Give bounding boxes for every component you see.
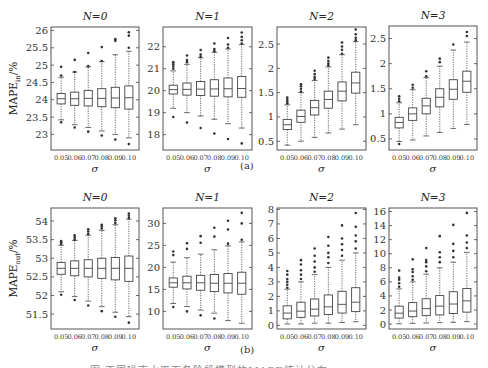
- outlier-point: [411, 275, 414, 278]
- x-tick-label: 0.10: [460, 333, 474, 341]
- outlier-point: [186, 54, 189, 57]
- outlier-point: [466, 31, 469, 34]
- boxplot-panel-a-N2: N=20.511.522.50.050.060.070.080.090.10σ: [258, 10, 366, 174]
- x-axis-label: σ: [204, 342, 212, 353]
- iqr-box: [449, 292, 457, 314]
- outlier-point: [313, 270, 316, 273]
- outlier-point: [128, 34, 131, 37]
- outlier-point: [425, 265, 428, 268]
- iqr-box: [409, 303, 417, 317]
- iqr-box: [436, 89, 444, 107]
- outlier-point: [354, 33, 357, 36]
- iqr-box: [111, 87, 119, 107]
- boxplot-panel-a-N3: N=30.511.522.50.050.060.070.080.090.10σ: [370, 9, 477, 174]
- panel-title: N=0: [82, 10, 108, 22]
- outlier-point: [227, 138, 230, 141]
- y-tick-label: 25: [35, 60, 48, 71]
- y-tick-label: 51.5: [26, 309, 48, 320]
- x-tick-label: 0.10: [122, 333, 136, 341]
- outlier-point: [73, 238, 76, 241]
- x-tick-label: 0.06: [294, 154, 308, 162]
- y-tick-label: 1.5: [258, 87, 274, 98]
- box-0.06: [71, 59, 79, 129]
- x-tick-label: 0.05: [166, 154, 180, 162]
- y-tick-label: 0: [380, 319, 386, 330]
- y-tick-label: 14: [373, 220, 386, 231]
- y-tick-label: 10: [373, 248, 386, 259]
- y-tick-label: 52: [35, 290, 48, 301]
- outlier-point: [172, 306, 175, 309]
- x-tick-label: 0.10: [348, 154, 362, 162]
- outlier-point: [213, 42, 216, 45]
- box-0.05: [57, 240, 65, 296]
- outlier-point: [227, 47, 230, 50]
- outlier-point: [438, 251, 441, 254]
- boxplot-panel-a-N1: N=118192021220.050.060.070.080.090.10σ: [147, 10, 252, 174]
- x-tick-label: 0.10: [348, 333, 362, 341]
- outlier-point: [411, 268, 414, 271]
- outlier-point: [286, 270, 289, 273]
- outlier-point: [240, 36, 243, 39]
- outlier-point: [452, 224, 455, 227]
- outlier-point: [398, 282, 401, 285]
- outlier-point: [411, 83, 414, 86]
- boxplot-panel-b-N0: N=051.55252.55353.5540.050.060.070.080.0…: [7, 191, 139, 353]
- outlier-point: [300, 259, 303, 262]
- outlier-point: [128, 321, 131, 324]
- outlier-point: [466, 234, 469, 237]
- outlier-point: [114, 222, 117, 225]
- outlier-point: [398, 276, 401, 279]
- box-0.06: [183, 54, 191, 124]
- outlier-point: [199, 235, 202, 238]
- outlier-point: [327, 236, 330, 239]
- outlier-point: [354, 39, 357, 42]
- box-0.09: [449, 43, 457, 128]
- outlier-point: [286, 284, 289, 287]
- outlier-point: [425, 247, 428, 250]
- iqr-box: [210, 80, 218, 96]
- x-tick-label: 0.09: [221, 333, 235, 341]
- x-tick-label: 0.06: [180, 333, 194, 341]
- outlier-point: [438, 61, 441, 64]
- x-tick-label: 0.06: [294, 333, 308, 341]
- x-tick-label: 0.09: [108, 154, 122, 162]
- y-tick-label: 1: [268, 305, 274, 316]
- box-0.05: [283, 270, 291, 324]
- outlier-point: [341, 249, 344, 252]
- x-tick-label: 0.08: [207, 333, 221, 341]
- outlier-point: [199, 49, 202, 52]
- outlier-point: [114, 38, 117, 41]
- outlier-point: [100, 223, 103, 226]
- box-0.08: [436, 235, 444, 323]
- outlier-point: [73, 299, 76, 302]
- iqr-box: [463, 71, 471, 92]
- outlier-point: [341, 49, 344, 52]
- y-tick-label: 20: [147, 85, 160, 96]
- box-0.09: [224, 219, 232, 320]
- box-0.05: [169, 61, 177, 119]
- x-axis-label: σ: [318, 342, 326, 353]
- outlier-point: [327, 252, 330, 255]
- iqr-box: [422, 299, 430, 316]
- y-tick-label: 18: [147, 129, 160, 140]
- iqr-box: [98, 89, 106, 107]
- outlier-point: [128, 215, 131, 218]
- outlier-point: [87, 304, 90, 307]
- y-tick-label: 25.5: [26, 42, 48, 53]
- outlier-point: [286, 278, 289, 281]
- x-tick-label: 0.06: [67, 154, 81, 162]
- y-tick-label: 21: [147, 63, 160, 74]
- outlier-point: [300, 278, 303, 281]
- panel-title: N=0: [82, 191, 108, 203]
- outlier-point: [341, 45, 344, 48]
- panel-title: N=2: [308, 10, 334, 22]
- outlier-point: [425, 75, 428, 78]
- x-tick-label: 0.05: [392, 333, 406, 341]
- x-tick-label: 0.07: [307, 333, 321, 341]
- outlier-point: [128, 46, 131, 49]
- box-0.07: [311, 69, 319, 137]
- y-tick-label: 24: [35, 94, 48, 105]
- outlier-point: [452, 243, 455, 246]
- outlier-point: [466, 241, 469, 244]
- y-tick-label: 53: [35, 253, 48, 264]
